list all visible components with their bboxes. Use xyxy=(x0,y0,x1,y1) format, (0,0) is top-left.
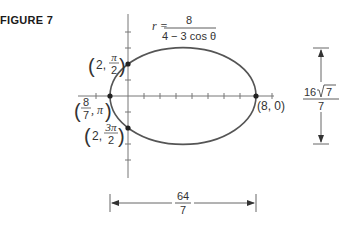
svg-text:7: 7 xyxy=(318,100,324,112)
svg-text:4 − 3 cos θ: 4 − 3 cos θ xyxy=(162,30,216,42)
svg-text:7: 7 xyxy=(83,109,89,121)
polar-ellipse-diagram: r = 8 4 − 3 cos θ ( 2, π 2 ) ( 8 7 , π )… xyxy=(0,0,360,230)
point-left xyxy=(107,93,112,98)
svg-text:(: ( xyxy=(84,125,91,147)
svg-text:2,: 2, xyxy=(92,129,102,143)
svg-text:, π: , π xyxy=(91,103,104,117)
point-bottom xyxy=(125,125,130,130)
label-top-point: ( 2, π 2 ) xyxy=(88,51,126,77)
svg-text:(: ( xyxy=(88,55,95,77)
svg-text:2,: 2, xyxy=(96,58,106,72)
label-left-point: ( 8 7 , π ) xyxy=(74,96,112,122)
major-axis-label: 64 7 xyxy=(175,190,191,216)
minor-axis-label: 16 7 7 xyxy=(303,85,339,112)
label-bottom-point: ( 2, 3π 2 ) xyxy=(84,121,125,147)
svg-text:7: 7 xyxy=(180,204,186,216)
svg-text:2: 2 xyxy=(111,64,117,76)
svg-text:π: π xyxy=(111,51,117,63)
svg-text:(: ( xyxy=(74,100,81,122)
point-top xyxy=(125,61,130,66)
svg-text:64: 64 xyxy=(177,190,189,202)
equation-label: r = 8 4 − 3 cos θ xyxy=(152,14,216,42)
svg-text:8: 8 xyxy=(83,96,89,108)
point-right xyxy=(253,93,258,98)
svg-text:): ) xyxy=(105,100,112,122)
svg-text:8: 8 xyxy=(186,14,192,26)
label-right-point: (8, 0) xyxy=(257,99,285,113)
svg-text:7: 7 xyxy=(326,86,332,98)
svg-text:16: 16 xyxy=(304,86,316,98)
svg-text:3π: 3π xyxy=(104,121,117,133)
svg-text:2: 2 xyxy=(108,134,114,146)
svg-text:): ) xyxy=(118,125,125,147)
svg-text:): ) xyxy=(119,55,126,77)
